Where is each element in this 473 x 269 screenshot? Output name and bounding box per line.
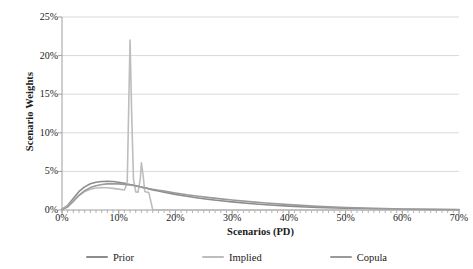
x-tick-label: 60% [379, 212, 425, 223]
chart-container: Scenario Weights 0%5%10%15%20%25% 0%10%2… [0, 0, 473, 269]
legend-item-implied[interactable]: Implied [202, 252, 262, 263]
legend-item-prior[interactable]: Prior [86, 252, 134, 263]
legend-swatch-icon [86, 256, 108, 258]
x-tick-label: 70% [436, 212, 473, 223]
legend-swatch-icon [202, 256, 224, 258]
y-tick-label: 25% [24, 12, 58, 22]
series-line-copula [62, 184, 459, 210]
x-tick-label: 20% [152, 212, 198, 223]
x-tick-label: 40% [266, 212, 312, 223]
x-tick-label: 30% [209, 212, 255, 223]
y-axis-tick-labels: 0%5%10%15%20%25% [0, 0, 58, 269]
chart-legend: PriorImpliedCopula [0, 248, 473, 266]
y-tick-label: 15% [24, 89, 58, 99]
y-tick-label: 20% [24, 51, 58, 61]
series-line-prior [62, 181, 459, 209]
x-axis-title: Scenarios (PD) [62, 226, 459, 237]
y-tick-label: 10% [24, 128, 58, 138]
y-tick-label: 5% [24, 166, 58, 176]
legend-label: Implied [229, 252, 262, 263]
legend-swatch-icon [330, 256, 352, 258]
legend-label: Prior [113, 252, 134, 263]
legend-label: Copula [357, 252, 387, 263]
legend-item-copula[interactable]: Copula [330, 252, 387, 263]
x-tick-label: 10% [96, 212, 142, 223]
x-tick-label: 0% [39, 212, 85, 223]
x-tick-label: 50% [323, 212, 369, 223]
